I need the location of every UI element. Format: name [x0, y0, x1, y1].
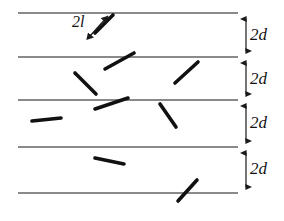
- buffon-needle-figure: 2d2d2d2d 2l: [0, 0, 284, 221]
- needle-7: [160, 104, 176, 127]
- needle-4: [175, 62, 198, 83]
- needle-9: [178, 180, 197, 201]
- needle-6: [32, 118, 61, 121]
- needles-group: [32, 15, 198, 201]
- needle-length-arrow: [90, 16, 108, 36]
- spacing-label-4: 2d: [250, 160, 267, 177]
- spacing-label-1: 2d: [250, 26, 267, 43]
- needle-8: [95, 158, 124, 164]
- needle-length-arrow-group: [90, 16, 108, 36]
- spacing-label-2: 2d: [250, 70, 267, 87]
- grid-lines-group: [18, 13, 238, 193]
- needle-3: [75, 73, 96, 94]
- spacing-label-3: 2d: [250, 114, 267, 131]
- needle-2: [105, 53, 134, 69]
- needle-1: [95, 15, 113, 33]
- figure-canvas: [0, 0, 284, 221]
- needle-length-label: 2l: [72, 14, 84, 30]
